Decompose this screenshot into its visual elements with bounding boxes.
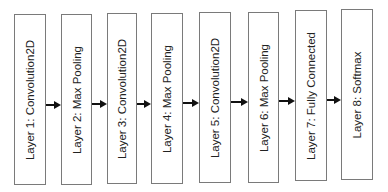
layer-6-label: Layer 6: Max Pooling <box>258 43 270 151</box>
layer-2-box: Layer 2: Max Pooling <box>61 14 92 185</box>
layer-6-box: Layer 6: Max Pooling <box>248 12 279 183</box>
arrow-1-2 <box>46 104 59 106</box>
arrow-7-8 <box>327 99 339 101</box>
layer-5-box: Layer 5: Convolution2D <box>199 12 231 183</box>
layer-3-box: Layer 3: Convolution2D <box>107 13 137 184</box>
arrow-2-3 <box>92 103 105 105</box>
arrow-3-4 <box>137 103 149 105</box>
layer-3-label: Layer 3: Convolution2D <box>116 38 128 158</box>
layer-8-label: Layer 8: Softmax <box>351 51 363 138</box>
layer-1-box: Layer 1: Convolution2D <box>14 14 46 185</box>
layer-7-label: Layer 7: Fully Connected <box>305 32 317 160</box>
arrow-6-7 <box>279 100 293 102</box>
arrow-5-6 <box>231 101 246 103</box>
layer-1-label: Layer 1: Convolution2D <box>24 39 36 159</box>
arrow-4-5 <box>183 102 197 104</box>
layer-4-box: Layer 4: Max Pooling <box>151 13 183 184</box>
layer-5-label: Layer 5: Convolution2D <box>209 37 221 157</box>
layer-7-box: Layer 7: Fully Connected <box>295 10 327 181</box>
layer-4-label: Layer 4: Max Pooling <box>161 44 173 152</box>
layer-8-box: Layer 8: Softmax <box>341 9 373 180</box>
layer-2-label: Layer 2: Max Pooling <box>71 45 83 153</box>
